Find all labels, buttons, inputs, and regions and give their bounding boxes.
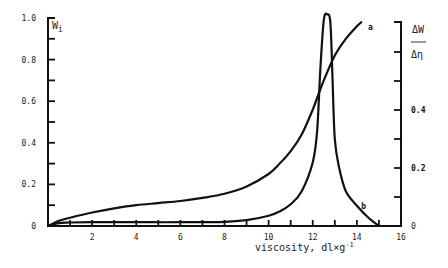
x-axis-label: viscosity, dl×g-1	[255, 241, 354, 253]
y-left-tick-label: 0	[31, 222, 36, 231]
x-tick-label: 12	[308, 233, 318, 242]
curve-b	[48, 14, 379, 226]
x-tick-label: 8	[222, 233, 227, 242]
chart: 00.20.40.60.81.024681012141600.20.4 Wi Δ…	[0, 0, 448, 268]
x-tick-label: 2	[90, 233, 95, 242]
x-tick-label: 4	[134, 233, 139, 242]
y-right-label-denominator: Δη	[411, 49, 423, 60]
y-right-tick-label: 0	[411, 222, 416, 231]
y-left-tick-label: 0.8	[22, 56, 37, 65]
y-axis-left-label: Wi	[52, 20, 63, 34]
curve-label-a: a	[368, 23, 373, 32]
y-left-tick-label: 0.6	[22, 97, 37, 106]
x-tick-label: 16	[396, 233, 406, 242]
y-left-tick-label: 0.2	[22, 180, 37, 189]
y-left-tick-label: 1.0	[22, 14, 37, 23]
x-tick-label: 6	[178, 233, 183, 242]
y-right-tick-label: 0.4	[411, 106, 426, 115]
y-left-tick-label: 0.4	[22, 139, 37, 148]
x-tick-label: 10	[264, 233, 274, 242]
y-right-tick-label: 0.2	[411, 164, 426, 173]
annotations: ab	[361, 23, 373, 210]
curve-label-b: b	[361, 202, 366, 211]
curves	[48, 14, 379, 226]
curve-a	[48, 22, 361, 226]
y-right-label-numerator: ΔW	[412, 24, 425, 35]
y-axis-right-label: ΔWΔη	[411, 24, 426, 60]
